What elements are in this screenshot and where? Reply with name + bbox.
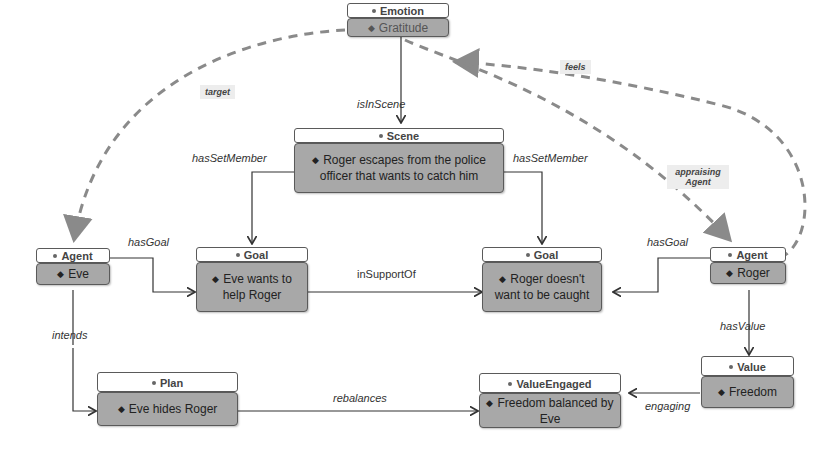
class-dot-icon [236, 253, 240, 257]
edge-label-appraising-agent: appraising Agent [667, 165, 729, 189]
edge-label-has-goal-roger: hasGoal [647, 236, 688, 248]
class-dot-icon [53, 254, 57, 258]
node-type-header: Emotion [347, 3, 449, 18]
edge-label-feels: feels [560, 60, 591, 74]
instance-diamond-icon: ◆ [368, 20, 375, 36]
node-type-header: Goal [196, 247, 308, 262]
edge-label-rebalances: rebalances [333, 392, 387, 404]
node-type-header: Agent [710, 247, 786, 262]
edge-label-has-goal-eve: hasGoal [128, 236, 169, 248]
node-instance-body: ◆Eve [36, 263, 110, 285]
edge-has-set-member-left [252, 172, 294, 244]
node-agent-roger[interactable]: Agent ◆Roger [710, 247, 786, 284]
instance-diamond-icon: ◆ [212, 274, 219, 284]
edge-label-has-value: hasValue [720, 320, 765, 332]
node-agent-eve[interactable]: Agent ◆Eve [36, 248, 110, 285]
node-type-header: Goal [482, 247, 602, 262]
class-dot-icon [728, 253, 732, 257]
node-instance-body: ◆Roger escapes from the police officer t… [294, 143, 504, 193]
edge-label-target: target [200, 85, 235, 99]
node-type-header: Plan [97, 372, 238, 392]
instance-diamond-icon: ◆ [486, 398, 493, 408]
edge-has-goal-roger [613, 258, 710, 292]
node-goal-roger[interactable]: Goal ◆Roger doesn't want to be caught [482, 247, 602, 312]
instance-diamond-icon: ◆ [499, 274, 506, 284]
edge-label-engaging: engaging [645, 400, 690, 412]
node-emotion[interactable]: Emotion ◆Gratitude [347, 3, 449, 37]
edge-label-in-support-of: inSupportOf [357, 268, 416, 280]
edge-intends-b [73, 348, 96, 411]
node-plan[interactable]: Plan ◆Eve hides Roger [97, 372, 238, 426]
class-dot-icon [526, 253, 530, 257]
edge-has-set-member-right [503, 172, 542, 244]
node-instance-body: ◆Roger doesn't want to be caught [482, 262, 602, 312]
node-instance-body: ◆Gratitude [347, 18, 449, 37]
instance-diamond-icon: ◆ [312, 155, 319, 165]
edge-label-intends: intends [52, 329, 87, 341]
class-dot-icon [379, 134, 383, 138]
node-type-header: Scene [294, 128, 504, 143]
node-type-header: Value [701, 356, 794, 376]
node-value-engaged[interactable]: ValueEngaged ◆Freedom balanced by Eve [479, 373, 621, 428]
class-dot-icon [729, 365, 733, 369]
instance-diamond-icon: ◆ [718, 384, 725, 400]
node-type-header: Agent [36, 248, 110, 263]
node-instance-body: ◆Freedom balanced by Eve [479, 393, 621, 428]
node-instance-body: ◆Roger [710, 262, 786, 284]
class-dot-icon [152, 381, 156, 385]
node-value[interactable]: Value ◆Freedom [701, 356, 794, 408]
instance-diamond-icon: ◆ [118, 401, 125, 417]
node-instance-body: ◆Freedom [701, 376, 794, 408]
node-scene[interactable]: Scene ◆Roger escapes from the police off… [294, 128, 504, 193]
class-dot-icon [508, 382, 512, 386]
node-goal-eve[interactable]: Goal ◆Eve wants to help Roger [196, 247, 308, 312]
edge-label-has-set-member-right: hasSetMember [513, 152, 588, 164]
instance-diamond-icon: ◆ [726, 265, 733, 281]
class-dot-icon [372, 9, 376, 13]
edge-label-is-in-scene: isInScene [357, 98, 405, 110]
edge-label-has-set-member-left: hasSetMember [192, 152, 267, 164]
node-instance-body: ◆Eve wants to help Roger [196, 262, 308, 312]
edge-feels [455, 62, 805, 258]
node-type-header: ValueEngaged [479, 373, 621, 393]
ontology-diagram: target feels appraising Agent isInScene … [0, 0, 833, 461]
instance-diamond-icon: ◆ [57, 266, 64, 282]
edge-has-goal-eve [110, 258, 195, 292]
node-instance-body: ◆Eve hides Roger [97, 392, 238, 426]
